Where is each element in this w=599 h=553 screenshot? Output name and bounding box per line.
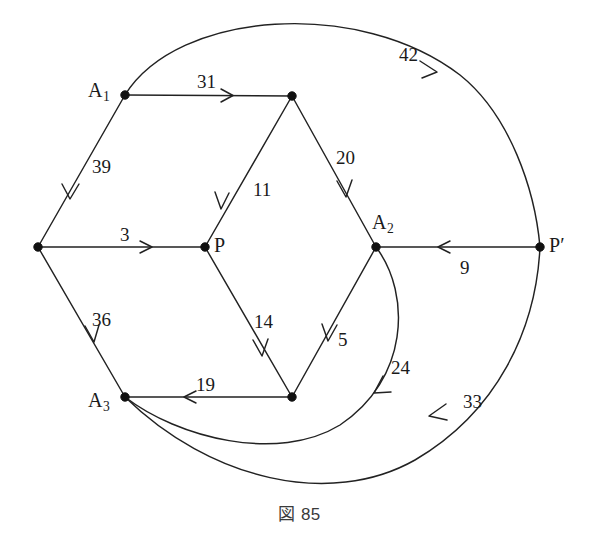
arrowhead-20	[337, 180, 352, 197]
node-p[interactable]	[201, 243, 209, 251]
nodes-layer	[34, 91, 544, 401]
edge-14	[205, 247, 292, 397]
arrowhead-33	[429, 404, 447, 420]
edge-weight-14: 14	[254, 312, 273, 331]
edge-weight-9: 9	[460, 258, 470, 277]
arrowhead-11	[215, 192, 229, 209]
node-label-a3: A3	[88, 390, 110, 410]
edge-weight-19: 19	[196, 375, 215, 394]
edge-weight-11: 11	[253, 180, 271, 199]
arrowhead-42	[420, 61, 437, 78]
figure-root: A1 P A2 P′ A3 31 39 3 36 11 20 14 5 19 9…	[0, 0, 599, 553]
edge-weight-36: 36	[92, 310, 111, 329]
edge-36	[38, 247, 125, 397]
node-left[interactable]	[34, 243, 42, 251]
edge-5	[292, 247, 376, 397]
node-label-a2: A2	[372, 212, 394, 232]
edge-11	[205, 96, 292, 247]
edge-weight-31: 31	[197, 72, 216, 91]
edge-weight-33: 33	[463, 392, 482, 411]
edge-weight-24: 24	[391, 358, 410, 377]
edge-39	[38, 95, 125, 247]
node-a3[interactable]	[121, 393, 129, 401]
node-top[interactable]	[288, 92, 296, 100]
edge-weight-42: 42	[399, 45, 418, 64]
node-a1[interactable]	[121, 91, 129, 99]
edge-weight-3: 3	[120, 225, 130, 244]
node-label-p: P	[214, 235, 225, 255]
edge-31	[125, 95, 292, 96]
figure-caption: 図 85	[0, 500, 599, 525]
edge-weight-39: 39	[92, 157, 111, 176]
node-p-prime[interactable]	[536, 243, 544, 251]
node-bottom[interactable]	[288, 393, 296, 401]
node-label-a1: A1	[88, 80, 110, 100]
edge-33	[125, 247, 540, 483]
edge-weight-20: 20	[336, 148, 355, 167]
node-label-p-prime: P′	[549, 235, 565, 255]
edge-weight-5: 5	[338, 330, 348, 349]
edge-42	[125, 24, 540, 247]
edge-20	[292, 96, 376, 247]
node-a2[interactable]	[372, 243, 380, 251]
